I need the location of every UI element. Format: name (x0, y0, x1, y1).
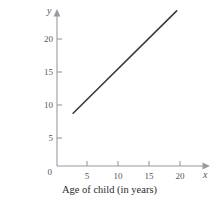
chart-figure: 0 5 10 15 20 5 10 15 20 x y Age of child… (0, 0, 219, 206)
chart-plot-area (0, 0, 219, 206)
y-axis-variable-label: y (47, 6, 51, 16)
data-line-series-0 (73, 11, 177, 113)
axis-origin-label: 0 (48, 168, 53, 177)
y-tick-label-5: 5 (49, 134, 54, 143)
x-tick-label-5: 5 (85, 172, 90, 181)
y-tick-label-15: 15 (44, 68, 53, 77)
x-tick-label-20: 20 (176, 172, 185, 181)
x-axis-title: Age of child (in years) (0, 184, 219, 196)
x-tick-label-15: 15 (145, 172, 154, 181)
y-axis-arrowhead (54, 9, 61, 17)
x-tick-label-10: 10 (114, 172, 123, 181)
y-tick-label-10: 10 (44, 101, 53, 110)
x-axis-variable-label: x (203, 170, 207, 180)
y-tick-label-20: 20 (44, 35, 53, 44)
